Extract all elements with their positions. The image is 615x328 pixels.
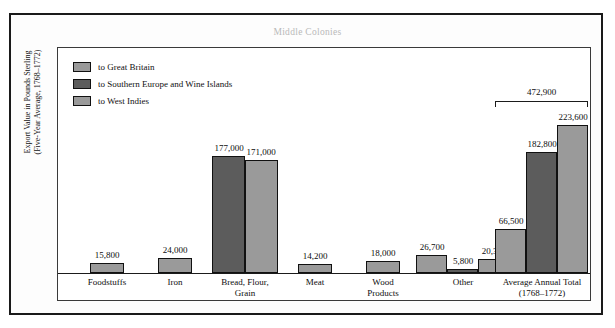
bar-value-total-great-britain: 66,500	[481, 216, 541, 226]
group-label-wood: Wood Products	[348, 277, 418, 299]
chart-figure: Middle Colonies Export Value in Pounds S…	[0, 0, 615, 328]
total-bracket-right-tick	[587, 101, 588, 107]
bar-foodstuffs-great-britain	[90, 263, 124, 273]
bar-meat-great-britain	[298, 264, 332, 273]
y-axis-label: Export Value in Pounds Sterling (Five-Ye…	[23, 12, 43, 192]
group-label-total: Average Annual Total (1768–1772)	[482, 277, 602, 299]
total-bracket	[495, 101, 588, 108]
group-label-bread: Bread, Flour, Grain	[210, 277, 280, 299]
bar-value-other-great-britain: 26,700	[402, 242, 462, 252]
bar-value-meat-great-britain: 14,200	[285, 251, 345, 261]
total-bracket-top	[495, 101, 588, 102]
bar-value-foodstuffs-great-britain: 15,800	[77, 250, 137, 260]
bar-other-southern-europe	[447, 269, 478, 273]
bar-value-other-southern-europe: 5,800	[433, 256, 493, 266]
bar-value-total-west-indies: 223,600	[543, 112, 603, 122]
total-bracket-left-tick	[495, 101, 496, 107]
group-label-iron: Iron	[140, 277, 210, 288]
bar-value-bread-west-indies: 171,000	[231, 147, 291, 157]
x-axis-baseline	[58, 273, 590, 274]
bar-total-great-britain	[495, 229, 526, 273]
bar-bread-southern-europe	[212, 156, 245, 273]
plot-area: to Great Britain to Southern Europe and …	[57, 47, 591, 301]
bar-bread-west-indies	[245, 160, 278, 273]
bar-value-iron-great-britain: 24,000	[145, 245, 205, 255]
page-title: Middle Colonies	[0, 27, 615, 37]
bar-iron-great-britain	[158, 258, 192, 273]
bar-wood-great-britain	[366, 261, 400, 273]
bar-total-southern-europe	[526, 152, 557, 273]
group-label-meat: Meat	[280, 277, 350, 288]
group-label-foodstuffs: Foodstuffs	[72, 277, 142, 288]
bar-value-total-southern-europe: 182,800	[512, 139, 572, 149]
total-bracket-value: 472,900	[495, 87, 588, 97]
bars-area: 15,800 Foodstuffs 24,000 Iron 177,000 17…	[58, 48, 590, 300]
